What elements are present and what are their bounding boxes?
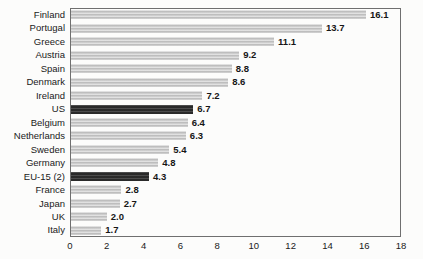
bar-row: Italy1.7: [0, 224, 401, 237]
category-label: US: [0, 104, 70, 114]
value-label: 13.7: [326, 23, 345, 33]
bar-cell: 8.6: [70, 75, 401, 88]
value-label: 9.2: [243, 50, 256, 60]
bar-highlighted: [70, 172, 149, 181]
category-label: Italy: [0, 225, 70, 235]
x-tick-label: 6: [178, 241, 183, 251]
x-tick-label: 16: [359, 241, 370, 251]
x-axis: 024681012141618: [0, 241, 423, 255]
category-label: Netherlands: [0, 131, 70, 141]
bar-cell: 2.7: [70, 197, 401, 210]
value-label: 8.6: [232, 77, 245, 87]
bar-row: Denmark8.6: [0, 75, 401, 88]
bar: [70, 131, 186, 140]
bar-row: Austria9.2: [0, 48, 401, 61]
bar-row: US6.7: [0, 102, 401, 115]
bar-row: Belgium6.4: [0, 116, 401, 129]
category-label: Austria: [0, 50, 70, 60]
bar-rows: Finland16.1Portugal13.7Greece11.1Austria…: [0, 8, 401, 237]
bar: [70, 212, 107, 221]
category-label: Portugal: [0, 23, 70, 33]
bar-row: France2.8: [0, 183, 401, 196]
value-label: 6.7: [197, 104, 210, 114]
bar-cell: 13.7: [70, 21, 401, 34]
value-label: 11.1: [278, 37, 296, 47]
bar-row: Germany4.8: [0, 156, 401, 169]
bar-row: Ireland7.2: [0, 89, 401, 102]
value-label: 4.3: [153, 172, 166, 182]
value-label: 2.7: [124, 199, 137, 209]
bar: [70, 91, 202, 100]
x-tick-label: 14: [322, 241, 333, 251]
bar-row: Japan2.7: [0, 197, 401, 210]
x-tick-label: 0: [67, 241, 72, 251]
bar: [70, 158, 158, 167]
bar: [70, 51, 239, 60]
bar-chart: Finland16.1Portugal13.7Greece11.1Austria…: [0, 0, 423, 259]
x-tick-label: 10: [249, 241, 260, 251]
bar-cell: 6.3: [70, 129, 401, 142]
bar: [70, 226, 101, 235]
category-label: UK: [0, 212, 70, 222]
x-tick-label: 18: [396, 241, 407, 251]
bar: [70, 10, 366, 19]
bar: [70, 37, 274, 46]
category-label: Ireland: [0, 91, 70, 101]
value-label: 7.2: [206, 91, 219, 101]
bar-cell: 4.8: [70, 156, 401, 169]
bar-cell: 2.0: [70, 210, 401, 223]
category-label: Japan: [0, 199, 70, 209]
value-label: 4.8: [162, 158, 175, 168]
bar-highlighted: [70, 105, 193, 114]
x-tick-label: 12: [285, 241, 296, 251]
x-tick-label: 2: [104, 241, 109, 251]
bar-cell: 1.7: [70, 224, 401, 237]
bar: [70, 185, 121, 194]
bar-row: UK2.0: [0, 210, 401, 223]
x-tick-label: 4: [141, 241, 146, 251]
category-label: Belgium: [0, 118, 70, 128]
value-label: 2.0: [111, 212, 124, 222]
bar-cell: 7.2: [70, 89, 401, 102]
value-label: 1.7: [105, 225, 118, 235]
bar-row: Portugal13.7: [0, 21, 401, 34]
bar: [70, 199, 120, 208]
category-label: Germany: [0, 158, 70, 168]
bar-cell: 4.3: [70, 170, 401, 183]
bar: [70, 78, 228, 87]
bar-cell: 9.2: [70, 48, 401, 61]
category-label: Denmark: [0, 77, 70, 87]
value-label: 16.1: [370, 10, 389, 20]
category-label: France: [0, 185, 70, 195]
x-tick-label: 8: [214, 241, 219, 251]
bar: [70, 64, 232, 73]
value-label: 8.8: [236, 64, 249, 74]
bar-row: EU-15 (2)4.3: [0, 170, 401, 183]
category-label: Sweden: [0, 145, 70, 155]
bar-cell: 8.8: [70, 62, 401, 75]
value-label: 6.4: [192, 118, 205, 128]
bar: [70, 24, 322, 33]
bar-cell: 5.4: [70, 143, 401, 156]
bar-row: Finland16.1: [0, 8, 401, 21]
bar-cell: 6.7: [70, 102, 401, 115]
bar: [70, 145, 169, 154]
bar-row: Sweden5.4: [0, 143, 401, 156]
bar-cell: 11.1: [70, 35, 401, 48]
bar-row: Greece11.1: [0, 35, 401, 48]
value-label: 5.4: [173, 145, 186, 155]
category-label: Finland: [0, 10, 70, 20]
bar-row: Netherlands6.3: [0, 129, 401, 142]
bar-cell: 6.4: [70, 116, 401, 129]
bar: [70, 118, 188, 127]
value-label: 2.8: [125, 185, 138, 195]
category-label: EU-15 (2): [0, 172, 70, 182]
bar-row: Spain8.8: [0, 62, 401, 75]
bar-cell: 16.1: [70, 8, 401, 21]
category-label: Greece: [0, 37, 70, 47]
category-label: Spain: [0, 64, 70, 74]
value-label: 6.3: [190, 131, 203, 141]
bar-cell: 2.8: [70, 183, 401, 196]
